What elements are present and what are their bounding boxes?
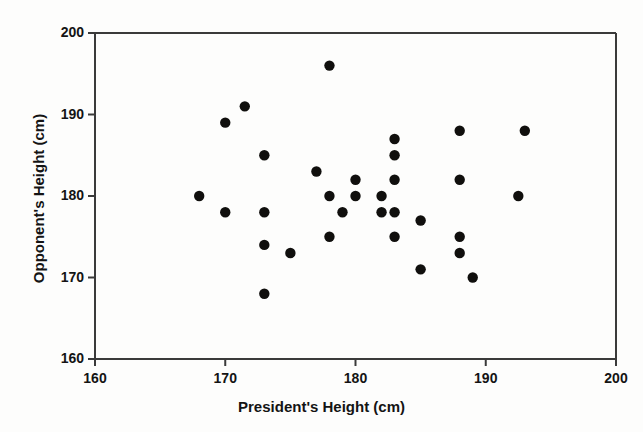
- data-point: [220, 207, 230, 217]
- data-point: [389, 232, 399, 242]
- y-axis-title: Opponent's Height (cm): [30, 69, 47, 329]
- data-point: [324, 60, 334, 70]
- data-point: [389, 175, 399, 185]
- data-point: [285, 248, 295, 258]
- x-tick-label: 160: [70, 370, 120, 386]
- data-point: [455, 248, 465, 258]
- data-point: [455, 126, 465, 136]
- data-point: [337, 207, 347, 217]
- data-point: [415, 264, 425, 274]
- data-point: [220, 117, 230, 127]
- x-tick-label: 190: [461, 370, 511, 386]
- data-point: [311, 166, 321, 176]
- x-tick-label: 180: [331, 370, 381, 386]
- data-point: [350, 175, 360, 185]
- y-tick-label: 160: [38, 350, 84, 366]
- data-point: [259, 207, 269, 217]
- x-tick-label: 200: [591, 370, 641, 386]
- data-point: [415, 215, 425, 225]
- data-point: [468, 272, 478, 282]
- scatter-plot-figure: 160170180190200 160170180190200 Presiden…: [0, 0, 643, 432]
- data-point: [324, 191, 334, 201]
- data-point: [194, 191, 204, 201]
- data-point: [520, 126, 530, 136]
- data-point: [389, 207, 399, 217]
- data-point: [389, 134, 399, 144]
- data-point: [350, 191, 360, 201]
- data-point: [389, 150, 399, 160]
- data-point: [259, 240, 269, 250]
- y-tick-label: 200: [38, 24, 84, 40]
- data-point: [324, 232, 334, 242]
- data-point: [376, 207, 386, 217]
- data-point: [259, 150, 269, 160]
- plot-canvas: [0, 0, 643, 432]
- data-point: [376, 191, 386, 201]
- x-tick-label: 170: [200, 370, 250, 386]
- data-point: [513, 191, 523, 201]
- data-point: [455, 175, 465, 185]
- data-points-layer: [194, 60, 530, 299]
- data-point: [240, 101, 250, 111]
- data-point: [259, 289, 269, 299]
- data-point: [455, 232, 465, 242]
- x-axis-title: President's Height (cm): [0, 398, 643, 415]
